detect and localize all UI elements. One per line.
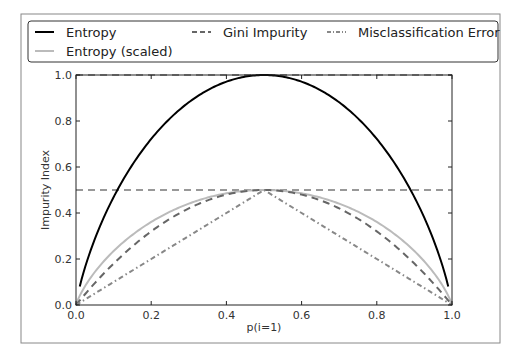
y-tick-label: 0.0	[55, 299, 73, 312]
legend-label-misclassification: Misclassification Error	[358, 25, 500, 40]
x-axis-label: p(i=1)	[247, 321, 282, 334]
y-tick-label: 0.6	[55, 161, 73, 174]
y-tick-label: 0.8	[55, 115, 73, 128]
figure-frame	[21, 14, 500, 343]
legend-label-entropy: Entropy	[66, 25, 117, 40]
x-tick-label: 1.0	[443, 309, 461, 322]
legend-label-gini: Gini Impurity	[223, 25, 308, 40]
x-tick-label: 0.8	[368, 309, 386, 322]
y-axis-label: Impurity Index	[39, 149, 52, 230]
impurity-chart: 0.00.20.40.60.81.00.00.20.40.60.81.0 p(i…	[0, 0, 530, 359]
y-tick-label: 1.0	[55, 69, 73, 82]
y-tick-label: 0.4	[55, 207, 73, 220]
legend-label-entropy-scaled: Entropy (scaled)	[66, 44, 173, 59]
x-tick-label: 0.2	[142, 309, 160, 322]
legend: Entropy Gini Impurity Misclassification …	[28, 21, 500, 62]
x-tick-label: 0.6	[293, 309, 311, 322]
x-tick-label: 0.4	[218, 309, 236, 322]
y-tick-label: 0.2	[55, 253, 73, 266]
